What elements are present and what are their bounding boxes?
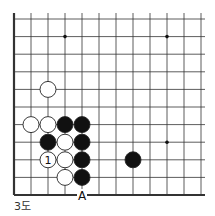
star-point: [63, 35, 67, 39]
black-stone: [57, 117, 73, 133]
move-number-label: 1: [45, 154, 52, 167]
black-stone: [74, 169, 90, 185]
black-stone: [74, 134, 90, 150]
point-label-A: A: [78, 189, 87, 200]
white-stone: [57, 152, 73, 168]
white-stone: [57, 134, 73, 150]
black-stone: [74, 117, 90, 133]
white-stone: [40, 117, 56, 133]
white-stone: [23, 117, 39, 133]
star-point: [165, 140, 169, 144]
star-point: [165, 35, 169, 39]
black-stone: [125, 152, 141, 168]
black-stone: [74, 152, 90, 168]
white-stone: [40, 81, 56, 97]
diagram-caption: 3도: [14, 201, 31, 213]
white-stone: [57, 169, 73, 185]
go-board: A1: [0, 0, 215, 200]
black-stone: [40, 134, 56, 150]
